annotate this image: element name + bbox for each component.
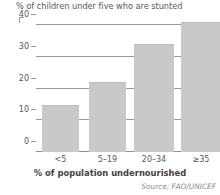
- y-axis-tick-30: 30: [19, 42, 36, 52]
- y-axis-tick-0: 0: [24, 137, 36, 147]
- x-axis-tick-label-under-5: <5: [55, 154, 67, 166]
- y-axis-tick-dash-40: [31, 14, 36, 15]
- y-axis-tick-40: 40: [19, 10, 36, 20]
- bar-35-plus[interactable]: [181, 22, 220, 152]
- source-note: Source: FAO/UNICEF: [141, 182, 216, 192]
- x-axis-tick-label-5-19: 5–19: [98, 154, 117, 166]
- plot-area: [36, 19, 214, 152]
- x-axis: <5 5–19 20–34 ≥35: [36, 154, 214, 167]
- bar-20-34[interactable]: [134, 44, 174, 152]
- bar-under-5[interactable]: [42, 105, 79, 153]
- y-axis-tick-label-0: 0: [24, 137, 29, 147]
- y-axis-tick-label-30: 30: [19, 42, 29, 52]
- y-axis-tick-label-40: 40: [19, 10, 29, 20]
- y-axis-tick-label-10: 10: [19, 105, 29, 115]
- stunting-vs-undernourishment-bar-chart: % of children under five who are stunted…: [0, 0, 220, 195]
- x-axis-tick-label-35-plus: ≥35: [193, 154, 210, 166]
- chart-title: % of children under five who are stunted: [16, 0, 182, 12]
- y-axis-tick-label-20: 20: [19, 74, 29, 84]
- y-axis: 40 30 20 10 0: [0, 19, 36, 152]
- bar-5-19[interactable]: [89, 82, 126, 152]
- x-axis-tick-label-20-34: 20–34: [142, 154, 166, 166]
- x-axis-title: % of population undernourished: [0, 167, 220, 179]
- y-axis-tick-10: 10: [19, 105, 36, 115]
- y-axis-tick-20: 20: [19, 74, 36, 84]
